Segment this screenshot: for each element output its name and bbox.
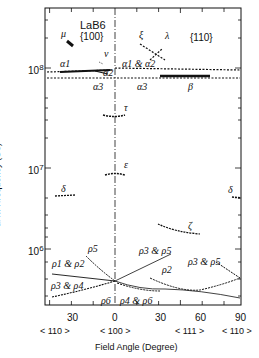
y-tick-exp: 6	[39, 244, 43, 253]
label-rho4-rho6: ρ4 & ρ6	[120, 296, 152, 306]
y-axis-label: dHvA frequency (Oe)	[0, 143, 2, 227]
label-alpha3-right: α3	[137, 82, 147, 92]
y-tick-10-6: 106	[28, 244, 44, 257]
label-delta-left: δ	[61, 184, 66, 194]
label-alpha3-left: α3	[93, 82, 103, 92]
label-alpha2: α2	[103, 68, 113, 78]
label-nu: ν	[104, 49, 108, 59]
y-tick-10-8: 108	[28, 63, 44, 76]
label-alpha1: α1	[60, 59, 70, 69]
label-beta: β	[188, 82, 193, 92]
label-rho3-rho5: ρ3 & ρ5	[139, 246, 171, 256]
label-rho5: ρ5	[88, 244, 98, 254]
x-tick-30-left: 30	[67, 313, 78, 323]
y-tick-exp: 7	[39, 163, 43, 172]
label-rho6: ρ6	[101, 296, 111, 306]
label-tau: τ	[124, 103, 128, 113]
chart-title: LaB6	[80, 20, 106, 30]
dir-110-right: < 110 >	[222, 326, 252, 336]
label-lambda: λ	[165, 31, 169, 41]
y-tick-base: 10	[28, 165, 39, 176]
label-mu: μ	[61, 29, 66, 39]
x-tick-0: 0	[112, 313, 118, 323]
plane-100-label: {100}	[80, 32, 103, 42]
plane-110-label: {110}	[190, 33, 213, 43]
x-axis-label: Field Angle (Degree)	[95, 342, 178, 352]
label-rho1-rho2: ρ1 & ρ2	[52, 259, 84, 269]
label-rho2: ρ2	[162, 265, 172, 275]
x-tick-90: 90	[235, 313, 246, 323]
dir-100: < 100 >	[100, 326, 131, 336]
label-rho3-rho5-110: ρ3 & ρ5	[188, 257, 220, 267]
y-tick-base: 10	[28, 65, 39, 76]
label-xi: ξ	[139, 30, 143, 40]
label-rho3-rho4: ρ3 & ρ4	[51, 281, 83, 291]
dir-110-left: < 110 >	[40, 326, 70, 336]
y-tick-base: 10	[28, 246, 39, 257]
label-epsilon: ε	[124, 160, 128, 170]
y-tick-10-7: 107	[28, 163, 44, 176]
y-tick-exp: 8	[39, 63, 43, 72]
label-alpha1-alpha2: α1 & α2	[122, 59, 155, 69]
label-zeta: ζ	[188, 221, 192, 231]
label-delta-right: δ	[228, 185, 233, 195]
dir-111: < 111 >	[175, 326, 204, 336]
x-tick-60: 60	[195, 313, 206, 323]
x-tick-30: 30	[155, 313, 166, 323]
